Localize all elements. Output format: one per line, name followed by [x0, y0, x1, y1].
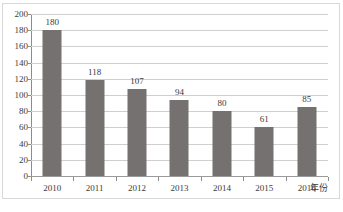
y-tick-label: 180 [2, 26, 28, 35]
x-tick-mark [31, 177, 32, 181]
bar[interactable] [212, 111, 231, 176]
x-tick-mark [286, 177, 287, 181]
y-tick-label: 120 [2, 75, 28, 84]
bar-group: 107 [116, 14, 158, 176]
bar[interactable] [297, 107, 316, 176]
plot-area: 18011810794806185 [31, 14, 328, 176]
x-tick-mark [73, 177, 74, 181]
x-tick-label: 2013 [171, 183, 189, 193]
bar[interactable] [43, 30, 62, 176]
x-tick-mark [201, 177, 202, 181]
x-tick-label: 2012 [128, 183, 146, 193]
x-tick-label: 2010 [43, 183, 61, 193]
y-tick-label: 80 [2, 107, 28, 116]
bar-chart-figure: 200180160140120100806040200 180118107948… [0, 0, 343, 212]
x-axis-title: 年份 [310, 183, 328, 193]
bar-value-label: 118 [88, 68, 101, 77]
x-tick-mark [243, 177, 244, 181]
y-tick-label: 0 [2, 172, 28, 181]
bar-group: 180 [31, 14, 73, 176]
y-tick-label: 140 [2, 59, 28, 68]
y-tick-label: 20 [2, 156, 28, 165]
bar[interactable] [170, 100, 189, 176]
x-tick-mark [328, 177, 329, 181]
bar-group: 94 [158, 14, 200, 176]
y-tick-label: 160 [2, 42, 28, 51]
bar-group: 118 [73, 14, 115, 176]
bar-value-label: 180 [45, 18, 59, 27]
y-tick-label: 60 [2, 123, 28, 132]
bar[interactable] [85, 80, 104, 176]
bar-group: 61 [243, 14, 285, 176]
x-tick-label: 2015 [255, 183, 273, 193]
y-axis-tick-labels: 200180160140120100806040200 [0, 14, 28, 176]
x-tick-mark [158, 177, 159, 181]
x-tick-label: 2011 [86, 183, 104, 193]
bar-group: 80 [201, 14, 243, 176]
y-tick-label: 100 [2, 91, 28, 100]
y-tick-label: 40 [2, 140, 28, 149]
bar[interactable] [128, 89, 147, 176]
bar-value-label: 94 [175, 88, 184, 97]
y-tick-label: 200 [2, 10, 28, 19]
bar-value-label: 85 [302, 95, 311, 104]
x-axis-tick-labels: 2010201120122013201420152016 [31, 177, 328, 197]
bar-value-label: 80 [217, 99, 226, 108]
bar[interactable] [255, 127, 274, 176]
bar-value-label: 61 [260, 115, 269, 124]
bar-group: 85 [286, 14, 328, 176]
x-tick-mark [116, 177, 117, 181]
x-tick-label: 2014 [213, 183, 231, 193]
bar-value-label: 107 [130, 77, 144, 86]
